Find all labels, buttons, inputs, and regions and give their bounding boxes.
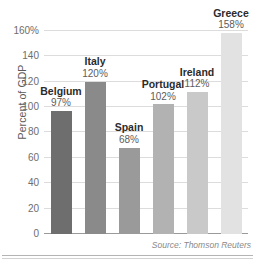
bar-category-label: Belgium [40,85,81,97]
bar-value-label: 68% [115,134,144,146]
source-note: Source: Thomson Reuters [152,240,251,250]
bar-value-label: 102% [142,91,185,103]
bar-series: Belgium97%Italy120%Spain68%Portugal102%I… [44,18,248,234]
y-axis-tick-label: 80 [28,126,39,137]
bar-category-label: Spain [115,121,144,133]
bar [187,92,208,234]
bar-label: Greece158% [213,7,249,31]
bar [85,82,106,234]
y-axis-tick-label: 40 [28,177,39,188]
y-axis-tick-label: 60 [28,151,39,162]
plot-area: 020406080100120140160% Belgium97%Italy12… [44,18,248,234]
bar [153,104,174,234]
bar-group: Ireland112% [187,18,208,234]
bar-value-label: 120% [82,68,108,80]
bar-chart: Percent of GDP 020406080100120140160% Be… [0,0,255,264]
bar-label: Spain68% [115,121,144,145]
bar [51,111,72,234]
bar-category-label: Greece [213,7,249,19]
bar-group: Portugal102% [153,18,174,234]
y-axis-tick-label: 160% [13,24,39,35]
footer-divider-bottom [2,258,253,259]
y-axis-tick-label: 20 [28,202,39,213]
bar-group: Spain68% [119,18,140,234]
bar-label: Belgium97% [40,85,81,109]
bar-group: Greece158% [221,18,242,234]
bar-group: Belgium97% [51,18,72,234]
y-axis-tick-label: 0 [33,228,39,239]
bar-label: Portugal102% [142,78,185,102]
bar-category-label: Portugal [142,78,185,90]
bar [221,33,242,234]
bar [119,148,140,234]
y-axis-tick-label: 100 [22,100,39,111]
bar-category-label: Italy [82,55,108,67]
y-axis-tick-label: 120 [22,75,39,86]
bar-value-label: 97% [40,97,81,109]
bar-value-label: 112% [180,78,214,90]
y-axis-tick-label: 140 [22,50,39,61]
bar-category-label: Ireland [180,66,214,78]
bar-group: Italy120% [85,18,106,234]
bar-label: Italy120% [82,55,108,79]
bar-label: Ireland112% [180,66,214,90]
footer-divider-top [2,255,253,256]
bar-value-label: 158% [213,19,249,31]
